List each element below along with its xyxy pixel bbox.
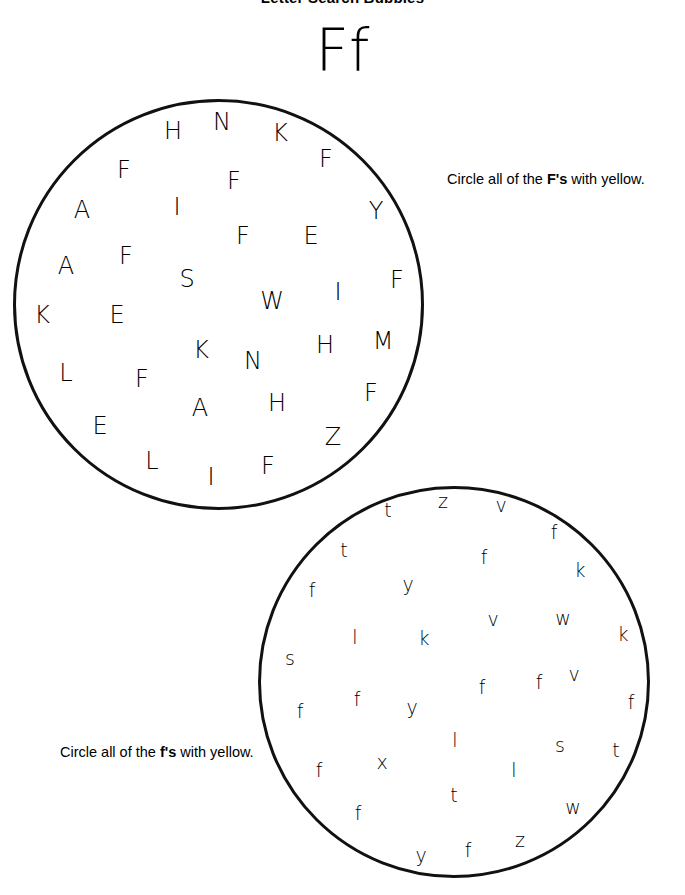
bubble-letter[interactable]: f <box>354 690 361 709</box>
instruction-lowercase-target: f's <box>160 744 176 760</box>
bubble-letter[interactable]: x <box>376 753 387 772</box>
instruction-uppercase: Circle all of the F's with yellow. <box>447 170 647 190</box>
bubble-letter[interactable]: I <box>207 465 214 489</box>
bubble-letter[interactable]: s <box>555 736 565 755</box>
bubble-letter[interactable]: I <box>334 280 341 304</box>
bubble-letter[interactable]: f <box>316 761 323 780</box>
bubble-letter[interactable]: S <box>179 267 194 291</box>
bubble-letter[interactable]: s <box>285 649 295 668</box>
bubble-letter[interactable]: F <box>319 147 333 171</box>
bubble-letter[interactable]: w <box>565 798 581 817</box>
bubble-letter[interactable]: E <box>92 414 107 438</box>
bubble-letter[interactable]: f <box>465 841 472 860</box>
bubble-letter[interactable]: A <box>74 198 90 222</box>
bubble-letter[interactable]: f <box>536 673 543 692</box>
bubble-letter[interactable]: f <box>551 523 558 542</box>
page-title: Letter Search Bubbles <box>0 0 685 6</box>
bubble-letter[interactable]: t <box>612 741 619 760</box>
bubble-letter[interactable]: F <box>135 367 149 391</box>
bubble-letter[interactable]: A <box>58 254 74 278</box>
bubble-letter[interactable]: y <box>402 575 413 594</box>
bubble-letter[interactable]: L <box>59 361 72 385</box>
bubble-letter[interactable]: K <box>272 121 288 145</box>
bubble-letter[interactable]: y <box>415 846 426 865</box>
bubble-letter[interactable]: N <box>213 110 231 134</box>
bubble-letter[interactable]: F <box>364 381 378 405</box>
bubble-letter[interactable]: f <box>481 548 488 567</box>
instruction-uppercase-target: F's <box>547 171 567 187</box>
bubble-letter[interactable]: k <box>617 625 628 644</box>
instruction-lowercase-prefix: Circle all of the <box>60 744 160 760</box>
bubble-letter[interactable]: l <box>452 731 457 750</box>
bubble-letter[interactable]: t <box>340 541 347 560</box>
bubble-letter[interactable]: f <box>355 804 362 823</box>
bubble-letter[interactable]: L <box>145 449 158 473</box>
bubble-letter[interactable]: H <box>316 333 334 357</box>
bubble-letter[interactable]: F <box>117 158 131 182</box>
instruction-uppercase-prefix: Circle all of the <box>447 171 547 187</box>
instruction-lowercase-suffix: with yellow. <box>176 744 253 760</box>
bubble-letter[interactable]: F <box>261 454 275 478</box>
instruction-uppercase-suffix: with yellow. <box>567 171 644 187</box>
bubble-letter[interactable]: H <box>164 119 182 143</box>
bubble-letter[interactable]: W <box>260 289 284 313</box>
bubble-letter[interactable]: t <box>384 501 391 520</box>
bubble-letter[interactable]: I <box>173 195 180 219</box>
bubble-letter[interactable]: k <box>418 629 429 648</box>
bubble-letter[interactable]: F <box>227 169 241 193</box>
bubble-letter[interactable]: F <box>390 268 404 292</box>
worksheet-page: Letter Search Bubbles Ff HNKFFFAIYFEFASF… <box>0 0 685 895</box>
bubble-letter[interactable]: E <box>303 224 318 248</box>
instruction-lowercase: Circle all of the f's with yellow. <box>60 743 260 763</box>
bubble-letter[interactable]: E <box>109 303 124 327</box>
bubble-letter[interactable]: K <box>193 338 209 362</box>
bubble-letter[interactable]: F <box>119 244 133 268</box>
bubble-letter[interactable]: w <box>555 609 571 628</box>
bubble-letter[interactable]: f <box>479 678 486 697</box>
bubble-uppercase <box>13 99 424 510</box>
bubble-letter[interactable]: k <box>574 561 585 580</box>
bubble-letter[interactable]: A <box>192 396 208 420</box>
bubble-letter[interactable]: z <box>438 492 448 511</box>
bubble-letter[interactable]: v <box>568 665 579 684</box>
bubble-letter[interactable]: N <box>244 349 262 373</box>
bubble-letter[interactable]: f <box>309 581 316 600</box>
bubble-letter[interactable]: M <box>373 329 394 353</box>
bubble-letter[interactable]: f <box>297 702 304 721</box>
bubble-letter[interactable]: F <box>236 224 250 248</box>
bubble-letter[interactable]: K <box>34 303 50 327</box>
bubble-letter[interactable]: Y <box>369 199 384 223</box>
bubble-lowercase <box>258 486 650 878</box>
bubble-letter[interactable]: v <box>487 610 498 629</box>
bubble-letter[interactable]: v <box>495 496 506 515</box>
letter-heading: Ff <box>0 22 685 80</box>
bubble-letter[interactable]: z <box>515 831 525 850</box>
bubble-letter[interactable]: l <box>352 628 357 647</box>
bubble-letter[interactable]: f <box>628 693 635 712</box>
bubble-letter[interactable]: t <box>450 786 457 805</box>
bubble-letter[interactable]: Z <box>325 425 341 449</box>
bubble-letter[interactable]: y <box>406 698 417 717</box>
bubble-letter[interactable]: H <box>268 391 286 415</box>
bubble-letter[interactable]: l <box>511 761 516 780</box>
